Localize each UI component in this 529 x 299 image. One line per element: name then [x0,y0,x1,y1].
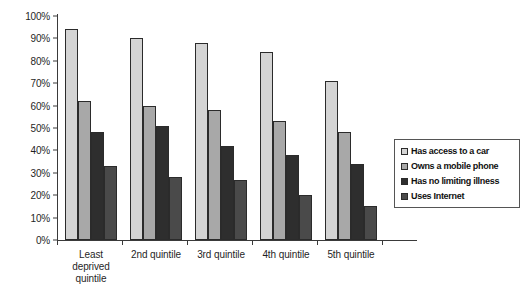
y-axis-tick-label: 20% [0,190,50,201]
y-axis-tick-label: 10% [0,212,50,223]
y-axis-tick-label: 100% [0,11,50,22]
bar [195,43,208,240]
y-axis-tick-label: 80% [0,55,50,66]
bar-group [195,16,247,240]
legend-swatch-icon [401,163,408,170]
bar [221,146,234,240]
y-axis-tick-label: 0% [0,235,50,246]
chart-legend: Has access to a carOwns a mobile phoneHa… [394,139,520,208]
plot-area [57,16,417,240]
x-axis-label-line: deprived [52,261,130,273]
x-axis-tick-mark [122,240,123,245]
x-axis-tick-mark [187,240,188,245]
y-axis-tick-label: 40% [0,145,50,156]
y-axis-tick-mark [53,150,57,151]
bar [364,206,377,240]
y-axis-tick-mark [53,172,57,173]
bar [338,132,351,240]
legend-label: Has no limiting illness [411,176,499,186]
bar [299,195,312,240]
x-axis-label-line: 5th quintile [312,249,390,261]
y-axis-tick-label: 30% [0,167,50,178]
x-axis-line [57,240,417,241]
bar [169,177,182,240]
y-axis-tick-label: 50% [0,123,50,134]
legend-item[interactable]: Has access to a car [401,146,514,156]
y-axis-tick-mark [53,38,57,39]
bar [130,38,143,240]
legend-item[interactable]: Owns a mobile phone [401,161,514,171]
x-axis-tick-mark [252,240,253,245]
bar [65,29,78,240]
x-axis-tick-mark [317,240,318,245]
bar [78,101,91,240]
bar [234,180,247,240]
x-axis-tick-mark [57,240,58,245]
bar [286,155,299,240]
y-axis-tick-mark [53,217,57,218]
y-axis-tick-label: 70% [0,78,50,89]
legend-item[interactable]: Has no limiting illness [401,176,514,186]
legend-swatch-icon [401,178,408,185]
legend-label: Has access to a car [411,146,489,156]
y-axis-tick-label: 90% [0,33,50,44]
y-axis-tick-mark [53,195,57,196]
y-axis-tick-label: 60% [0,100,50,111]
bar-group [325,16,377,240]
bar [260,52,273,240]
bar [104,166,117,240]
bar [208,110,221,240]
bar [351,164,364,240]
bar-group [260,16,312,240]
bar [143,106,156,240]
bar-group [65,16,117,240]
legend-label: Owns a mobile phone [411,161,498,171]
bar-chart: 100%90%80%70%60%50%40%30%20%10%0% Leastd… [0,0,529,299]
bar-group [130,16,182,240]
x-axis-label: 5th quintile [312,249,390,261]
x-axis-label-line: quintile [52,273,130,285]
bar [325,81,338,240]
x-axis-tick-mark [382,240,383,245]
bar [156,126,169,240]
y-axis-tick-mark [53,105,57,106]
y-axis-tick-mark [53,83,57,84]
y-axis-tick-mark [53,60,57,61]
bar [91,132,104,240]
legend-item[interactable]: Uses Internet [401,191,514,201]
legend-swatch-icon [401,193,408,200]
legend-label: Uses Internet [411,191,464,201]
y-axis-tick-mark [53,16,57,17]
y-axis-tick-mark [53,128,57,129]
legend-swatch-icon [401,148,408,155]
bar [273,121,286,240]
